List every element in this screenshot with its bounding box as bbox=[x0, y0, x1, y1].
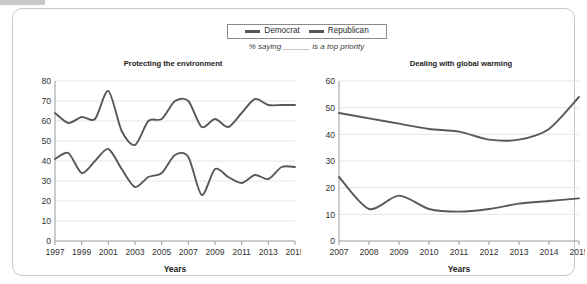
chart-legend: Democrat Republican bbox=[227, 24, 387, 39]
y-tick-label: 60 bbox=[325, 76, 335, 86]
legend-swatch-republican bbox=[309, 30, 324, 33]
y-tick-label: 40 bbox=[325, 130, 335, 140]
figure-subtitle: % saying ______ is a top priority bbox=[13, 42, 587, 51]
chart-title-left: Protecting the environment bbox=[73, 59, 273, 68]
x-tick-label: 2009 bbox=[205, 247, 224, 257]
top-crop-bar bbox=[0, 0, 45, 5]
x-tick-label: 2013 bbox=[259, 247, 278, 257]
x-tick-label: 2007 bbox=[329, 247, 348, 257]
y-tick-label: 10 bbox=[41, 216, 51, 226]
x-tick-label: 2015 bbox=[285, 247, 301, 257]
y-tick-label: 20 bbox=[41, 196, 51, 206]
chart-title-right: Dealing with global warming bbox=[361, 59, 561, 68]
x-tick-label: 2011 bbox=[232, 247, 251, 257]
legend-label-democrat: Democrat bbox=[264, 27, 300, 35]
y-tick-label: 80 bbox=[41, 76, 51, 86]
x-tick-label: 2013 bbox=[509, 247, 528, 257]
x-tick-label: 2015 bbox=[569, 247, 585, 257]
y-tick-label: 0 bbox=[46, 236, 51, 246]
series-line-republican bbox=[339, 177, 579, 212]
x-tick-label: 2014 bbox=[539, 247, 558, 257]
chart-right-svg: 0102030405060200720082009201020112012201… bbox=[313, 75, 585, 275]
x-tick-label: 2001 bbox=[99, 247, 118, 257]
y-tick-label: 30 bbox=[325, 156, 335, 166]
legend-item-democrat: Democrat bbox=[245, 27, 300, 35]
x-tick-label: 2011 bbox=[450, 247, 469, 257]
x-tick-label: 1997 bbox=[45, 247, 64, 257]
chart-left-svg: 0102030405060708019971999200120032005200… bbox=[29, 75, 301, 275]
figure-root: Democrat Republican % saying ______ is a… bbox=[0, 0, 587, 284]
y-tick-label: 20 bbox=[325, 183, 335, 193]
x-tick-label: 2012 bbox=[479, 247, 498, 257]
x-tick-label: 1999 bbox=[72, 247, 91, 257]
x-tick-label: 2009 bbox=[389, 247, 408, 257]
y-tick-label: 60 bbox=[41, 116, 51, 126]
y-tick-label: 0 bbox=[330, 236, 335, 246]
chart-dealing-with-global-warming: 0102030405060200720082009201020112012201… bbox=[313, 75, 585, 275]
legend-item-republican: Republican bbox=[309, 27, 369, 35]
x-tick-label: 2008 bbox=[359, 247, 378, 257]
y-tick-label: 10 bbox=[325, 210, 335, 220]
y-tick-label: 70 bbox=[41, 96, 51, 106]
series-line-republican bbox=[55, 149, 295, 195]
x-tick-label: 2010 bbox=[419, 247, 438, 257]
chart-protecting-the-environment: 0102030405060708019971999200120032005200… bbox=[29, 75, 301, 275]
x-axis-label: Years bbox=[164, 264, 187, 274]
y-tick-label: 30 bbox=[41, 176, 51, 186]
figure-panel: Democrat Republican % saying ______ is a… bbox=[12, 8, 575, 276]
legend-label-republican: Republican bbox=[328, 27, 369, 35]
y-tick-label: 40 bbox=[41, 156, 51, 166]
y-tick-label: 50 bbox=[41, 136, 51, 146]
legend-swatch-democrat bbox=[245, 30, 260, 33]
x-tick-label: 2005 bbox=[152, 247, 171, 257]
x-tick-label: 2003 bbox=[125, 247, 144, 257]
x-tick-label: 2007 bbox=[179, 247, 198, 257]
x-axis-label: Years bbox=[448, 264, 471, 274]
y-tick-label: 50 bbox=[325, 103, 335, 113]
series-line-democrat bbox=[55, 91, 295, 145]
